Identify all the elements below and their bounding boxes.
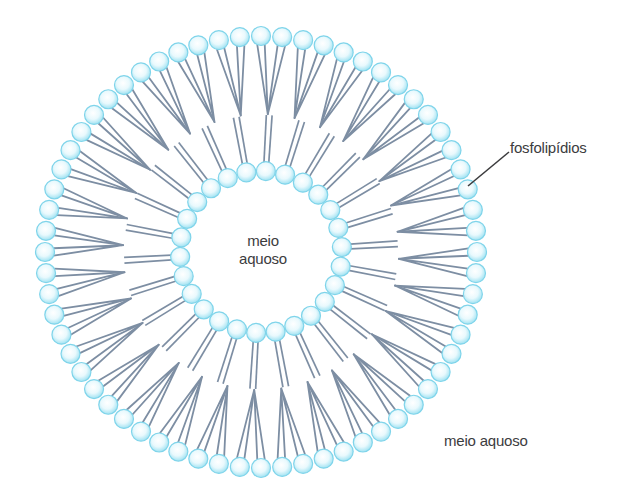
phospholipid-head <box>293 173 312 192</box>
phospholipid-head <box>36 243 55 262</box>
lipid-tail <box>330 309 367 339</box>
lipid-tail <box>145 300 185 325</box>
lipid-tail <box>399 259 468 276</box>
phospholipid-head <box>189 36 208 55</box>
lipid-tail <box>326 157 360 190</box>
lipid-tail <box>76 323 142 353</box>
lipid-tail <box>268 45 285 114</box>
lipid-tail <box>124 255 171 257</box>
phospholipids-label: fosfolipídios <box>510 139 587 157</box>
phospholipid-head <box>442 141 461 160</box>
lipid-tail <box>54 228 123 245</box>
lipid-tail <box>76 151 136 193</box>
phospholipid-head <box>61 141 80 160</box>
phospholipid-head <box>321 201 340 220</box>
lipid-tail <box>155 165 192 195</box>
lipid-tail <box>339 184 380 208</box>
phospholipid-head <box>389 409 408 428</box>
phospholipid-head <box>99 90 118 109</box>
phospholipid-head <box>52 325 71 344</box>
phospholipid-head <box>418 105 437 124</box>
phospholipid-head <box>227 320 246 339</box>
lipid-tail <box>257 45 268 115</box>
phospholipid-head <box>325 276 344 295</box>
phospholipid-head <box>252 27 271 46</box>
phospholipid-head <box>37 221 56 240</box>
phospholipid-head <box>169 442 188 461</box>
inner-medium-line2: aquoso <box>218 250 308 268</box>
phospholipid-head <box>334 43 353 62</box>
phospholipid-head <box>172 228 191 247</box>
lipid-tail <box>379 151 445 181</box>
phospholipid-head <box>466 264 485 283</box>
phospholipid-head <box>209 31 228 50</box>
liposome-diagram: fosfolipídios meio aquoso meio aquoso <box>0 0 635 497</box>
phospholipid-head <box>353 433 372 452</box>
phospholipid-head <box>463 200 482 219</box>
lipid-tail <box>126 89 168 149</box>
lipid-tail <box>391 188 461 205</box>
lipid-tail <box>179 142 208 180</box>
lipid-tail <box>399 248 469 259</box>
phospholipid-head <box>331 257 350 276</box>
lipid-tail <box>332 370 362 436</box>
phospholipid-head <box>194 300 213 319</box>
phospholipid-head <box>276 165 295 184</box>
lipid-tail <box>250 341 253 388</box>
phospholipid-head <box>131 422 150 441</box>
lipid-tail <box>193 330 217 371</box>
phospholipid-head <box>294 31 313 50</box>
lipid-tail <box>54 245 124 256</box>
phospholipid-head <box>468 243 487 262</box>
lipid-tail <box>333 305 371 334</box>
inner-aqueous-medium-label: meio aquoso <box>218 232 308 268</box>
phospholipid-head <box>266 322 285 341</box>
phospholipid-head <box>99 395 118 414</box>
phospholipid-head <box>442 344 461 363</box>
phospholipid-head <box>389 76 408 95</box>
lipid-tail <box>86 134 150 170</box>
lipid-tail <box>269 115 272 162</box>
lipid-tail <box>372 334 436 370</box>
phospholipid-head <box>171 247 190 266</box>
phospholipid-head <box>309 185 328 204</box>
phospholipid-head <box>230 457 249 476</box>
phospholipid-head <box>273 28 292 47</box>
inner-medium-line1: meio <box>218 232 308 250</box>
lipid-tail <box>61 298 131 315</box>
phospholipid-head <box>334 442 353 461</box>
phospholipid-head <box>273 457 292 476</box>
lipid-tail <box>237 390 254 459</box>
lipid-tail <box>354 354 396 414</box>
phospholipid-head <box>418 380 437 399</box>
phospholipid-head <box>451 325 470 344</box>
phospholipid-head <box>237 163 256 182</box>
outer-aqueous-medium-label: meio aquoso <box>444 432 528 450</box>
phospholipid-head <box>353 52 372 71</box>
lipid-tail <box>314 324 343 362</box>
phospholipid-head <box>372 422 391 441</box>
lipid-tail <box>142 296 183 320</box>
phospholipid-head <box>301 306 320 325</box>
lipid-tail <box>124 260 171 263</box>
lipid-tail <box>174 146 204 183</box>
liposome-illustration <box>0 0 635 497</box>
phospholipid-head <box>114 409 133 428</box>
phospholipid-head <box>329 218 348 237</box>
lipid-tail <box>350 241 397 244</box>
phospholipid-head <box>372 63 391 82</box>
lipid-tail <box>264 115 266 162</box>
lipid-tail <box>98 345 158 387</box>
lipid-tail <box>305 133 329 174</box>
phospholipid-head <box>40 200 59 219</box>
phospholipid-head <box>131 63 150 82</box>
phospholipid-head <box>314 449 333 468</box>
phospholipid-head <box>52 160 71 179</box>
lipid-tail <box>160 67 190 133</box>
phospholipid-head <box>463 285 482 304</box>
lipid-tail <box>197 52 214 122</box>
phospholipid-head <box>209 454 228 473</box>
lipid-tail <box>320 67 362 127</box>
phospholipid-head <box>230 28 249 47</box>
phospholipid-head <box>210 312 229 331</box>
